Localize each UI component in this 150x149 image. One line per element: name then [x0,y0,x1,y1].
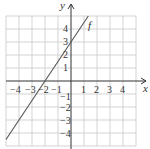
svg-text:−2: −2 [60,102,71,113]
svg-text:−4: −4 [10,84,21,95]
y-axis-label: y [59,0,65,11]
svg-text:4: 4 [63,23,68,34]
svg-text:−2: −2 [38,84,49,95]
svg-text:1: 1 [81,84,86,95]
graph: y x f −4 −3 −2 −1 1 2 3 4 4 3 2 1 −1 −2 … [0,0,150,149]
svg-text:−1: −1 [60,91,71,102]
svg-text:−4: −4 [60,128,71,139]
svg-text:1: 1 [63,62,68,73]
svg-text:3: 3 [63,36,68,47]
svg-text:2: 2 [63,49,68,60]
x-axis-label: x [142,82,148,94]
axes [6,4,146,149]
svg-text:−3: −3 [25,84,36,95]
svg-text:2: 2 [94,84,99,95]
svg-text:−3: −3 [60,115,71,126]
series-f-line [6,16,88,140]
svg-text:3: 3 [107,84,112,95]
svg-text:4: 4 [120,84,125,95]
